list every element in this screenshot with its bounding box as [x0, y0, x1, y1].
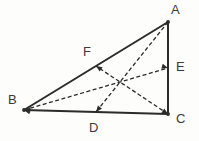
vertex-dot-c	[166, 112, 170, 116]
median-BE	[24, 68, 168, 110]
point-label-f: F	[83, 45, 91, 58]
point-label-d: D	[89, 121, 99, 134]
geometry-figure: ABCDEF	[0, 0, 199, 141]
arrow-at-E-on-BE	[161, 64, 168, 69]
point-label-b: B	[8, 93, 17, 106]
vertex-dot-b	[22, 108, 26, 112]
point-label-c: C	[176, 112, 186, 125]
arrow-at-F-on-CF	[96, 66, 103, 72]
triangle-sides-group	[24, 22, 168, 114]
triangle-medians-diagram	[0, 0, 199, 141]
point-label-a: A	[171, 3, 180, 16]
median-AD	[96, 22, 168, 112]
point-label-e: E	[176, 60, 185, 73]
median-CF	[96, 66, 168, 114]
vertex-dot-a	[166, 20, 170, 24]
